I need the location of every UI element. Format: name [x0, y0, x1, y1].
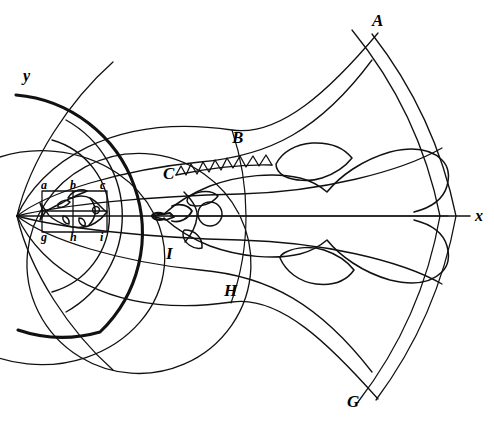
label-C: C	[163, 165, 174, 182]
label-b: b	[70, 179, 76, 191]
label-A: A	[372, 12, 383, 29]
large-fish-anal-fin	[280, 248, 354, 285]
label-x-axis: x	[475, 208, 483, 224]
label-G: G	[347, 393, 359, 410]
small-fish-pelvic-fin	[63, 216, 69, 224]
large-fish	[152, 143, 448, 284]
label-a: a	[41, 179, 47, 191]
large-fish-lower-outline	[164, 218, 448, 283]
label-g: g	[41, 231, 47, 243]
label-I: I	[166, 245, 173, 262]
small-fish-anal-fin	[79, 218, 85, 226]
label-i: i	[100, 231, 103, 243]
arc-r438-outer	[372, 34, 456, 400]
large-fish-soft-dorsal-fin	[276, 143, 352, 181]
small-fish-eye	[93, 207, 100, 214]
figure-canvas	[0, 0, 494, 421]
large-fish-cheek	[172, 205, 192, 222]
label-c: c	[100, 179, 105, 191]
transformation-figure: A B C G H I a b c g h i y x	[0, 0, 494, 421]
small-fish-body	[46, 196, 107, 227]
label-B: B	[232, 129, 243, 146]
label-H: H	[224, 282, 237, 299]
label-y-axis: y	[23, 68, 30, 84]
large-fish-eye	[198, 202, 222, 226]
label-h: h	[70, 231, 77, 243]
